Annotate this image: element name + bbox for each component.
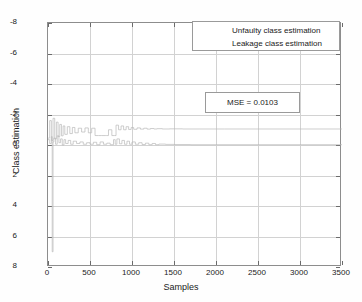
trace-line: [48, 118, 342, 140]
x-tick-label: 500: [69, 269, 109, 277]
mse-annotation-label: MSE = 0.0103: [227, 98, 278, 107]
y-tick-label: 8: [0, 262, 17, 270]
x-axis-title: Samples: [0, 282, 362, 292]
x-tick-label: 3000: [279, 269, 319, 277]
legend-item-unfaulty: Unfaulty class estimation: [193, 24, 339, 37]
legend-label-unfaulty: Unfaulty class estimation: [232, 26, 320, 35]
x-tick-label: 1500: [153, 269, 193, 277]
legend-swatch-unfaulty: [196, 30, 228, 31]
chart-figure: 86420-2-4-6-8 05001000150020002500300035…: [0, 0, 362, 302]
y-tick-label: -6: [0, 49, 17, 57]
plot-area: [47, 22, 341, 266]
legend-swatch-leakage: [196, 43, 228, 44]
x-tick-label: 1000: [111, 269, 151, 277]
y-axis-title: Class estimation: [11, 81, 21, 201]
y-tick-label: 4: [0, 201, 17, 209]
mse-annotation-box: MSE = 0.0103: [205, 92, 300, 113]
chart-legend: Unfaulty class estimation Leakage class …: [192, 21, 340, 51]
x-axis-tick: [342, 23, 343, 27]
legend-label-leakage: Leakage class estimation: [232, 39, 322, 48]
data-traces: [48, 23, 342, 267]
trace-line: [48, 136, 342, 252]
x-tick-label: 0: [27, 269, 67, 277]
x-tick-label: 2500: [237, 269, 277, 277]
x-tick-label: 3500: [321, 269, 361, 277]
x-axis-tick: [342, 261, 343, 265]
y-tick-label: -8: [0, 18, 17, 26]
legend-item-leakage: Leakage class estimation: [193, 37, 339, 50]
y-tick-label: 6: [0, 232, 17, 240]
x-tick-label: 2000: [195, 269, 235, 277]
